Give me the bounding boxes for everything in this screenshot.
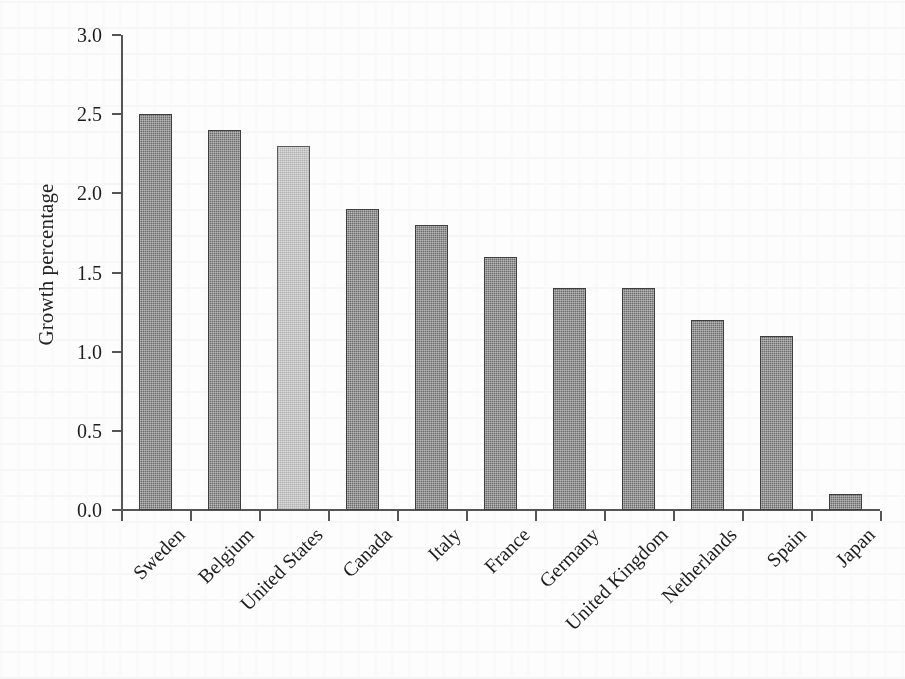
y-axis-tick-label-text: 1.0	[38, 342, 102, 362]
x-axis-category-label: France	[480, 524, 533, 577]
y-axis-tick-label-text: 3.0	[38, 25, 102, 45]
x-axis-category-label: Japan	[831, 524, 877, 570]
y-axis-tick-label: 2.5	[36, 104, 102, 124]
x-axis-tick	[121, 511, 123, 521]
bar-belgium	[208, 130, 241, 510]
y-axis-tick-label: 1.0	[36, 342, 102, 362]
bar-canada	[346, 209, 379, 510]
y-axis-tick-label-text: 2.0	[38, 183, 102, 203]
y-axis-tick-label: 0.0	[36, 500, 102, 520]
bar-italy	[415, 225, 448, 510]
x-axis-tick	[811, 511, 813, 521]
bar-united-states	[277, 146, 310, 510]
y-axis-tick-label: 2.0	[36, 183, 102, 203]
x-axis-tick	[466, 511, 468, 521]
figure: Growth percentage 0.00.51.01.52.02.53.0 …	[0, 0, 905, 679]
y-axis-tick	[112, 272, 121, 274]
y-axis-tick	[112, 113, 121, 115]
bar-germany	[553, 288, 586, 510]
y-axis-tick-label-text: 1.5	[38, 263, 102, 283]
bar-united-kingdom	[622, 288, 655, 510]
x-axis-category-label: Germany	[535, 524, 602, 591]
x-axis-category-label: Belgium	[194, 524, 257, 587]
y-axis-tick	[112, 430, 121, 432]
y-axis-tick-label-text: 0.5	[38, 421, 102, 441]
x-axis-category-label: Spain	[762, 524, 808, 570]
bar-france	[484, 257, 517, 510]
x-axis-tick	[535, 511, 537, 521]
bar-japan	[829, 494, 862, 510]
x-axis-category-label: Sweden	[129, 524, 188, 583]
bar-netherlands	[691, 320, 724, 510]
bar-sweden	[139, 114, 172, 510]
y-axis-tick-label-text: 2.5	[38, 104, 102, 124]
x-axis-tick	[328, 511, 330, 521]
y-axis-tick-label: 1.5	[36, 263, 102, 283]
x-axis-tick	[604, 511, 606, 521]
bar-chart-plot: Growth percentage 0.00.51.01.52.02.53.0 …	[0, 0, 905, 679]
x-axis-tick	[673, 511, 675, 521]
y-axis-tick-label: 0.5	[36, 421, 102, 441]
y-axis-tick	[112, 192, 121, 194]
x-axis-tick	[190, 511, 192, 521]
y-axis-line	[121, 35, 123, 511]
y-axis-tick	[112, 509, 121, 511]
x-axis-tick	[880, 511, 882, 521]
x-axis-tick	[259, 511, 261, 521]
x-axis-tick	[742, 511, 744, 521]
bar-spain	[760, 336, 793, 510]
y-axis-tick	[112, 34, 121, 36]
x-axis-category-label: Canada	[338, 524, 395, 581]
y-axis-tick-label-text: 0.0	[38, 500, 102, 520]
x-axis-tick	[397, 511, 399, 521]
y-axis-tick-label: 3.0	[36, 25, 102, 45]
x-axis-category-label: Italy	[424, 524, 464, 564]
y-axis-tick	[112, 351, 121, 353]
